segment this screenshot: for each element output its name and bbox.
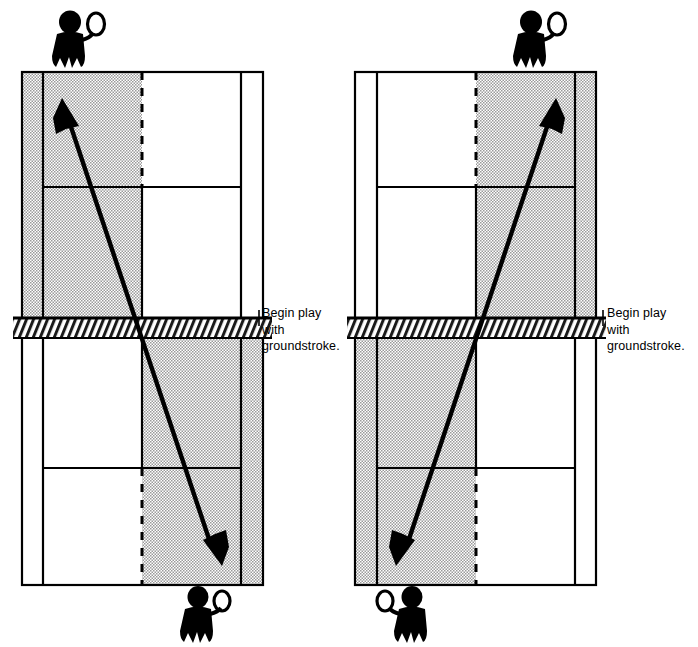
caption-right: Begin play with groundstroke.	[607, 305, 685, 355]
tennis-drill-figure	[0, 0, 698, 647]
shaded-zone-bottom-right	[355, 336, 476, 585]
player-bottom-right	[377, 586, 427, 643]
panel-left-crosscourt-drill	[13, 11, 272, 644]
panel-right-downtheline-drill	[347, 11, 606, 644]
player-bottom-left	[180, 586, 230, 643]
caption-left: Begin play with groundstroke.	[262, 305, 340, 355]
shaded-zone-bottom-left	[142, 336, 263, 585]
player-top-left	[52, 11, 105, 69]
diagram-canvas: Begin play with groundstroke. Begin play…	[0, 0, 698, 647]
player-top-right	[513, 11, 566, 69]
